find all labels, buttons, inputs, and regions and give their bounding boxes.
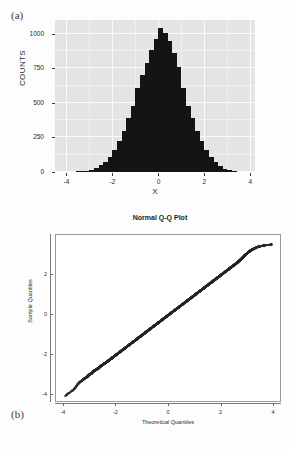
- histogram-x-tick-label: 4: [240, 178, 260, 185]
- histogram-y-tick-mark: [52, 34, 55, 35]
- histogram-y-tick-mark: [52, 103, 55, 104]
- panel-a-histogram: (a) COUNTS X 02505007501000-4-2024: [0, 0, 294, 200]
- histogram-gridline-major: [250, 20, 251, 172]
- histogram-y-tick-label: 0: [0, 168, 44, 175]
- figure-page: (a) COUNTS X 02505007501000-4-2024 (b) N…: [0, 0, 294, 449]
- histogram-x-tick-mark: [66, 173, 67, 176]
- histogram-x-tick-label: -2: [102, 178, 122, 185]
- qq-plot-area: [55, 234, 281, 402]
- panel-b-qqplot: (b) Normal Q-Q Plot Sample Quantiles The…: [0, 200, 294, 449]
- histogram-y-tick-label: 1000: [0, 30, 44, 37]
- histogram-x-tick-label: -4: [56, 178, 76, 185]
- qq-x-tick-mark: [63, 403, 64, 406]
- panel-a-label: (a): [11, 9, 23, 21]
- histogram-gridline-minor: [89, 20, 90, 172]
- qq-x-tick-label: 2: [213, 409, 229, 415]
- qq-x-tick-mark: [273, 403, 274, 406]
- qq-x-tick-label: 4: [265, 409, 281, 415]
- qq-x-tick-label: 0: [160, 409, 176, 415]
- qq-x-tick-label: -4: [55, 409, 71, 415]
- histogram-x-tick-label: 0: [148, 178, 168, 185]
- qq-y-axis-line: [50, 234, 51, 402]
- qq-y-tick-label: 0: [33, 311, 47, 317]
- qq-y-tick-label: -4: [33, 391, 47, 397]
- histogram-y-tick-label: 750: [0, 64, 44, 71]
- qq-x-tick-label: -2: [107, 409, 123, 415]
- histogram-x-axis-label: X: [55, 187, 255, 196]
- histogram-gridline-major: [55, 33, 255, 34]
- histogram-x-tick-mark: [158, 173, 159, 176]
- histogram-bar: [232, 171, 237, 172]
- qq-x-axis-label: Theoretical Quantiles: [55, 419, 281, 425]
- qq-y-tick-mark: [50, 314, 53, 315]
- qq-y-axis-label: Sample Quantiles: [27, 256, 33, 346]
- histogram-y-tick-mark: [52, 172, 55, 173]
- qq-y-tick-mark: [50, 354, 53, 355]
- qq-y-tick-label: -2: [33, 351, 47, 357]
- qq-x-tick-mark: [115, 403, 116, 406]
- histogram-x-tick-label: 2: [194, 178, 214, 185]
- qq-y-tick-mark: [50, 274, 53, 275]
- histogram-gridline-major: [66, 20, 67, 172]
- qq-data-point: [270, 243, 272, 245]
- histogram-x-tick-mark: [204, 173, 205, 176]
- histogram-plot-area: [55, 20, 255, 172]
- qq-x-tick-mark: [168, 403, 169, 406]
- qq-y-tick-mark: [50, 394, 53, 395]
- histogram-y-tick-mark: [52, 137, 55, 138]
- histogram-y-tick-mark: [52, 68, 55, 69]
- qq-y-tick-label: 2: [33, 271, 47, 277]
- histogram-x-tick-mark: [112, 173, 113, 176]
- histogram-gridline-minor: [227, 20, 228, 172]
- panel-b-label: (b): [11, 408, 24, 420]
- qq-plot-title: Normal Q-Q Plot: [40, 214, 280, 221]
- histogram-y-tick-label: 250: [0, 133, 44, 140]
- histogram-x-tick-mark: [250, 173, 251, 176]
- histogram-y-tick-label: 500: [0, 99, 44, 106]
- qq-x-tick-mark: [221, 403, 222, 406]
